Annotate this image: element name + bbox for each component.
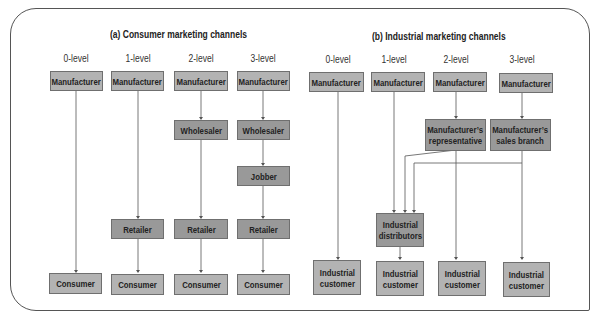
consumer-channels-title: (a) Consumer marketing channels bbox=[110, 29, 247, 40]
box-label: Manufacturer bbox=[501, 78, 550, 89]
box-label-line1: Manufacturer’s bbox=[493, 124, 549, 135]
arrowhead bbox=[136, 270, 140, 273]
box-label-line2: customer bbox=[319, 278, 354, 289]
industrial-0-manufacturer-box: Manufacturer bbox=[309, 72, 364, 92]
box-label: Retailer bbox=[187, 224, 216, 235]
consumer-3-manufacturer-box: Manufacturer bbox=[237, 71, 290, 91]
industrial-channels-title: (b) Industrial marketing channels bbox=[372, 31, 506, 42]
box-label-line2: distributors bbox=[378, 230, 421, 241]
industrial-3-manufacturer-box: Manufacturer bbox=[499, 73, 553, 93]
box-label-line2: customer bbox=[509, 280, 544, 291]
industrial-level-1-label: 1-level bbox=[369, 54, 420, 65]
box-label-line1: Industrial bbox=[382, 268, 417, 279]
arrowhead bbox=[199, 270, 203, 273]
consumer-level-0-label: 0-level bbox=[51, 53, 102, 64]
box-label-line1: Industrial bbox=[382, 219, 417, 230]
box-label-line2: customer bbox=[444, 279, 479, 290]
box-label: Manufacturer bbox=[113, 76, 162, 87]
consumer-3-wholesaler-box: Wholesaler bbox=[237, 120, 290, 140]
consumer-2-manufacturer-box: Manufacturer bbox=[174, 71, 228, 91]
industrial-distributors-box: Industrial distributors bbox=[376, 213, 424, 247]
consumer-0-consumer-box: Consumer bbox=[49, 273, 102, 294]
consumer-1-manufacturer-box: Manufacturer bbox=[111, 71, 164, 91]
consumer-1-consumer-box: Consumer bbox=[111, 274, 164, 295]
industrial-level-2-label: 2-level bbox=[431, 54, 482, 65]
consumer-1-retailer-box: Retailer bbox=[111, 219, 164, 239]
consumer-level-3-label: 3-level bbox=[238, 53, 289, 64]
box-label: Manufacturer bbox=[435, 77, 484, 88]
consumer-2-wholesaler-box: Wholesaler bbox=[174, 120, 228, 140]
industrial-1-customer-box: Industrial customer bbox=[376, 261, 424, 296]
industrial-0-customer-box: Industrial customer bbox=[313, 260, 361, 295]
industrial-level-0-label: 0-level bbox=[313, 54, 364, 65]
consumer-level-1-label: 1-level bbox=[113, 53, 164, 64]
arrowhead bbox=[520, 257, 524, 260]
arrow-i2-rep-distributors bbox=[405, 150, 456, 212]
box-label: Wholesaler bbox=[180, 125, 222, 136]
industrial-1-manufacturer-box: Manufacturer bbox=[371, 72, 425, 92]
box-label: Manufacturer bbox=[239, 76, 288, 87]
industrial-level-3-label: 3-level bbox=[497, 54, 548, 65]
arrow-i3-branch-distributors bbox=[414, 163, 522, 212]
consumer-level-2-label: 2-level bbox=[176, 53, 227, 64]
box-label: Manufacturer bbox=[176, 76, 225, 87]
consumer-3-consumer-box: Consumer bbox=[237, 274, 290, 295]
box-label-line1: Industrial bbox=[319, 267, 354, 278]
box-label: Consumer bbox=[182, 279, 221, 290]
consumer-3-jobber-box: Jobber bbox=[237, 166, 290, 186]
box-label: Manufacturer bbox=[312, 77, 361, 88]
consumer-2-retailer-box: Retailer bbox=[174, 219, 228, 239]
box-label-line2: sales branch bbox=[497, 135, 545, 146]
industrial-2-manufacturer-box: Manufacturer bbox=[433, 72, 487, 92]
industrial-3-sales-branch-box: Manufacturer’s sales branch bbox=[490, 119, 551, 151]
arrowhead bbox=[454, 257, 458, 260]
box-label-line1: Manufacturer’s bbox=[428, 124, 484, 135]
box-label: Manufacturer bbox=[373, 77, 422, 88]
consumer-2-consumer-box: Consumer bbox=[174, 274, 228, 295]
arrowhead bbox=[398, 257, 402, 260]
box-label-line1: Industrial bbox=[509, 269, 544, 280]
box-label-line2: representative bbox=[429, 135, 482, 146]
box-label: Manufacturer bbox=[52, 76, 101, 87]
arrowhead bbox=[261, 270, 265, 273]
industrial-3-customer-box: Industrial customer bbox=[503, 262, 550, 297]
box-label: Consumer bbox=[118, 279, 157, 290]
box-label: Consumer bbox=[244, 279, 283, 290]
industrial-2-customer-box: Industrial customer bbox=[438, 261, 486, 296]
box-label-line1: Industrial bbox=[444, 268, 479, 279]
box-label: Consumer bbox=[56, 278, 95, 289]
box-label: Retailer bbox=[249, 224, 278, 235]
box-label: Retailer bbox=[123, 224, 152, 235]
box-label: Jobber bbox=[251, 171, 277, 182]
box-label: Wholesaler bbox=[243, 125, 285, 136]
consumer-0-manufacturer-box: Manufacturer bbox=[50, 71, 103, 91]
consumer-3-retailer-box: Retailer bbox=[237, 219, 290, 239]
industrial-2-representative-box: Manufacturer’s representative bbox=[425, 119, 486, 151]
box-label-line2: customer bbox=[382, 279, 417, 290]
